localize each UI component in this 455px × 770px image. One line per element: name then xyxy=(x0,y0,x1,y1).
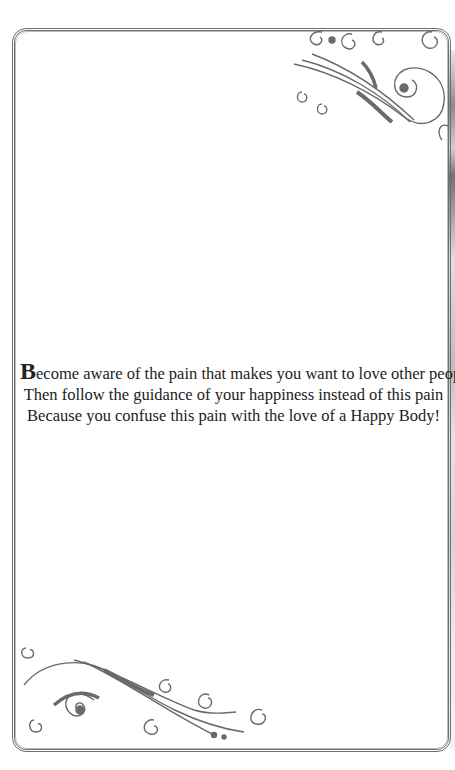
poem-line-1: Become aware of the pain that makes you … xyxy=(20,361,447,384)
poem-line-2: Then follow the guidance of your happine… xyxy=(20,384,447,405)
drop-cap: B xyxy=(20,358,36,384)
poem-text-block: Become aware of the pain that makes you … xyxy=(20,361,447,426)
top-right-flourish-icon xyxy=(292,22,452,142)
poem-line-3: Because you confuse this pain with the l… xyxy=(20,405,447,426)
bottom-left-flourish-icon xyxy=(14,640,274,745)
